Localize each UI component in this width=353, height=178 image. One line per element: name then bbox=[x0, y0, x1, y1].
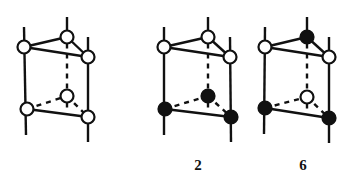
site-bottom-back-open bbox=[61, 90, 74, 103]
prism-figure-1 bbox=[18, 17, 95, 142]
site-top-back-open bbox=[202, 31, 215, 44]
site-top-right-open bbox=[323, 51, 336, 64]
site-top-right-open bbox=[224, 51, 237, 64]
prism-figure-2: 2 bbox=[158, 17, 238, 173]
site-bottom-right-filled bbox=[225, 111, 238, 124]
site-top-back-open bbox=[61, 31, 74, 44]
site-bottom-left-open bbox=[21, 103, 34, 116]
bottom-edge-left-right bbox=[265, 108, 329, 118]
site-bottom-back-open bbox=[301, 91, 314, 104]
site-bottom-back-filled bbox=[202, 90, 215, 103]
site-top-right-open bbox=[82, 51, 95, 64]
bottom-edge-left-right bbox=[165, 109, 231, 117]
figure-label: 2 bbox=[194, 157, 202, 173]
prism-figure-3: 6 bbox=[259, 17, 336, 173]
trigonal-prism-diagram: 26 bbox=[0, 0, 353, 178]
site-bottom-left-filled bbox=[259, 102, 272, 115]
site-top-back-filled bbox=[301, 31, 314, 44]
site-top-left-open bbox=[18, 41, 31, 54]
site-top-left-open bbox=[158, 41, 171, 54]
site-bottom-right-open bbox=[82, 111, 95, 124]
figure-label: 6 bbox=[299, 157, 307, 173]
bottom-edge-left-right bbox=[27, 109, 88, 117]
site-bottom-right-filled bbox=[323, 112, 336, 125]
site-bottom-left-filled bbox=[159, 103, 172, 116]
site-top-left-open bbox=[259, 41, 272, 54]
